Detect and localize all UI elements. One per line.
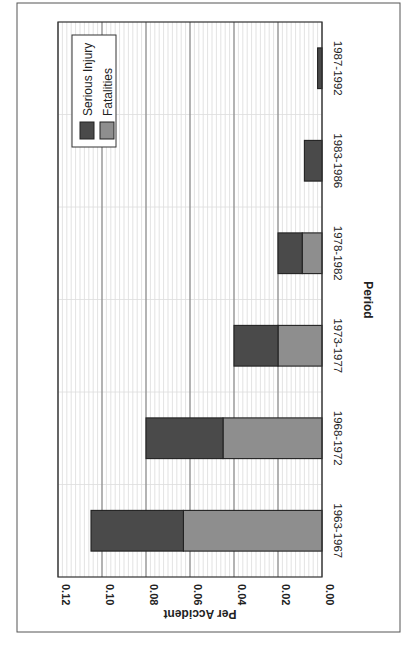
y-tick-label: 0.04 <box>236 584 248 606</box>
x-axis-label: Period <box>361 281 375 318</box>
legend: Serious InjuryFatalities <box>72 35 116 147</box>
category-label: 1973-1977 <box>332 318 344 373</box>
y-tick-label: 0.12 <box>60 584 72 605</box>
y-tick-label: 0.08 <box>148 584 160 605</box>
bar-segment-fatalities <box>302 233 322 274</box>
legend-label: Serious Injury <box>81 43 95 116</box>
bar-segment-fatalities <box>278 325 322 366</box>
category-label: 1978-1982 <box>332 226 344 281</box>
legend-swatch-serious-injury <box>80 122 94 139</box>
legend-swatch-fatalities <box>100 122 114 139</box>
y-tick-label: 0.00 <box>324 584 336 605</box>
category-label: 1968-1972 <box>332 411 344 466</box>
y-tick-label: 0.02 <box>280 584 292 605</box>
bar-segment-serious-injury <box>146 418 223 459</box>
category-label: 1987-1992 <box>332 41 344 96</box>
bar-segment-fatalities <box>183 510 322 551</box>
y-tick-label: 0.06 <box>192 584 204 605</box>
bar-segment-serious-injury <box>318 48 322 89</box>
category-label: 1983-1986 <box>332 133 344 188</box>
bar-segment-serious-injury <box>91 510 183 551</box>
stacked-bar-chart: 0.000.020.040.060.080.100.12 1963-196719… <box>0 0 406 651</box>
bar-segment-serious-injury <box>234 325 278 366</box>
bar-segment-serious-injury <box>304 140 322 181</box>
y-tick-label: 0.10 <box>104 584 116 605</box>
category-label: 1963-1967 <box>332 503 344 558</box>
y-axis-label: Per Accident <box>164 607 237 621</box>
legend-label: Fatalities <box>101 68 115 116</box>
bar-segment-fatalities <box>223 418 322 459</box>
bar-segment-serious-injury <box>278 233 302 274</box>
